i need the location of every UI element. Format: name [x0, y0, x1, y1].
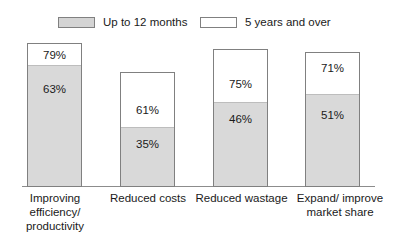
category-label-line-0: Expand/ improve [288, 191, 392, 205]
category-label-line-1: efficiency/ [12, 205, 98, 219]
bar-segment-upper-2: 61% [121, 73, 174, 129]
bar-reduced-costs: 61% 35% [120, 72, 175, 187]
bar-value-label-lower-4: 51% [306, 109, 359, 121]
bar-segment-lower-3: 46% [214, 102, 267, 186]
bar-segment-upper-1: 79% [28, 44, 81, 67]
plot-area: 79% 63% 61% 35% 75% 46% [0, 0, 397, 247]
bar-segment-lower-2: 35% [121, 127, 174, 186]
category-label-line-0: Improving [12, 191, 98, 205]
bar-value-label-upper-3: 75% [214, 78, 267, 90]
bar-value-label-upper-2: 61% [121, 104, 174, 116]
category-label-line-2: productivity [12, 219, 98, 233]
bar-improving-efficiency: 79% 63% [27, 43, 82, 187]
category-label-improving-efficiency: Improving efficiency/ productivity [12, 191, 98, 233]
category-label-reduced-wastage: Reduced wastage [193, 191, 290, 205]
bar-value-label-upper-1: 79% [28, 49, 81, 61]
category-label-expand-improve-market-share: Expand/ improve market share [288, 191, 392, 219]
bar-segment-lower-4: 51% [306, 94, 359, 186]
bar-value-label-upper-4: 71% [306, 62, 359, 74]
category-label-line-0: Reduced wastage [193, 191, 290, 205]
bar-reduced-wastage: 75% 46% [213, 49, 268, 187]
bar-value-label-lower-3: 46% [214, 113, 267, 125]
bar-segment-lower-1: 63% [28, 65, 81, 186]
category-label-reduced-costs: Reduced costs [103, 191, 193, 205]
bar-value-label-lower-1: 63% [28, 83, 81, 95]
bar-expand-improve-market-share: 71% 51% [305, 52, 360, 187]
bar-value-label-lower-2: 35% [121, 138, 174, 150]
bar-segment-upper-4: 71% [306, 53, 359, 96]
stacked-bar-chart: Up to 12 months 5 years and over 79% 63%… [0, 0, 397, 247]
category-label-line-0: Reduced costs [103, 191, 193, 205]
bar-segment-upper-3: 75% [214, 50, 267, 104]
category-label-line-1: market share [288, 205, 392, 219]
